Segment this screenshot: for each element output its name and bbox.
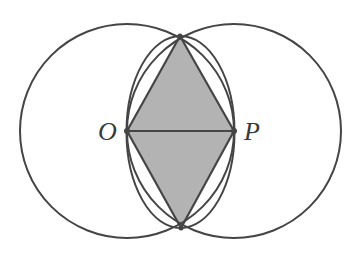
label-o: O — [98, 119, 117, 145]
diagram-canvas: O P — [0, 0, 359, 255]
point-top — [178, 34, 183, 39]
point-o — [124, 128, 130, 134]
point-p — [231, 128, 237, 134]
label-p: P — [244, 119, 260, 145]
diagram-svg — [0, 0, 359, 255]
point-bottom — [179, 226, 184, 231]
